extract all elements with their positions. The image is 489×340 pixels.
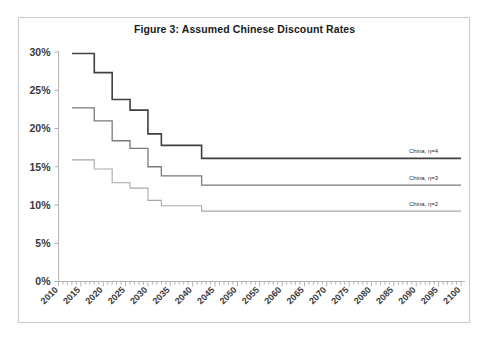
series-label-3: China, η=2 bbox=[409, 201, 439, 207]
x-tick-label: 2095 bbox=[419, 285, 440, 306]
discount-rates-line-chart: 0%5%10%15%20%25%30%201020152020202520302… bbox=[0, 0, 489, 340]
x-tick-label: 2055 bbox=[240, 285, 261, 306]
x-tick-label: 2065 bbox=[285, 285, 306, 306]
series-label-2: China, η=3 bbox=[409, 175, 439, 181]
x-tick-label: 2070 bbox=[307, 285, 328, 306]
series-label-1: China, η=4 bbox=[409, 148, 439, 154]
y-tick-label: 0% bbox=[35, 275, 51, 287]
series-line-2 bbox=[72, 108, 461, 185]
x-tick-label: 2060 bbox=[262, 285, 283, 306]
y-tick-label: 5% bbox=[35, 237, 51, 249]
x-tick-label: 2075 bbox=[329, 285, 350, 306]
y-tick-label: 30% bbox=[29, 46, 51, 58]
x-tick-label: 2035 bbox=[150, 285, 171, 306]
x-tick-label: 2020 bbox=[83, 285, 104, 306]
x-tick-label: 2080 bbox=[352, 285, 373, 306]
x-tick-label: 2030 bbox=[128, 285, 149, 306]
x-tick-label: 2015 bbox=[61, 285, 82, 306]
x-tick-label: 2010 bbox=[39, 285, 60, 306]
y-tick-label: 15% bbox=[29, 161, 51, 173]
x-tick-label: 2025 bbox=[106, 285, 127, 306]
x-tick-label: 2090 bbox=[396, 285, 417, 306]
y-tick-label: 20% bbox=[29, 122, 51, 134]
x-tick-label: 2085 bbox=[374, 285, 395, 306]
x-tick-label: 2045 bbox=[195, 285, 216, 306]
x-tick-label: 2040 bbox=[173, 285, 194, 306]
y-tick-label: 25% bbox=[29, 84, 51, 96]
y-tick-label: 10% bbox=[29, 199, 51, 211]
figure-container: Figure 3: Assumed Chinese Discount Rates… bbox=[0, 0, 489, 340]
x-tick-label: 2050 bbox=[218, 285, 239, 306]
x-tick-label: 2100 bbox=[441, 285, 462, 306]
